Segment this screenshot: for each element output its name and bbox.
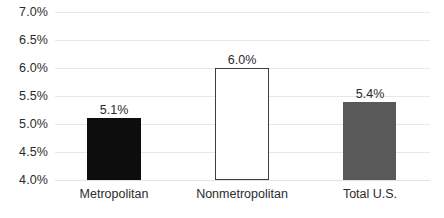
y-axis-tick-label-4-5: 4.5% [0, 146, 48, 159]
y-axis-tick-label-7-0: 7.0% [0, 6, 48, 19]
x-axis-category-label-metropolitan: Metropolitan [54, 188, 174, 201]
bar-chart: 7.0% 6.5% 6.0% 5.5% 5.0% 4.5% 4.0% 5.1% … [0, 0, 444, 218]
gridline-4-0-baseline [55, 180, 430, 181]
bar-value-label-total-us: 5.4% [330, 88, 410, 101]
bar-metropolitan[interactable] [87, 118, 141, 180]
y-axis-tick-label-5-0: 5.0% [0, 118, 48, 131]
bar-total-us[interactable] [343, 102, 396, 180]
x-axis-category-label-nonmetropolitan: Nonmetropolitan [172, 188, 312, 201]
bar-nonmetropolitan[interactable] [215, 68, 269, 180]
gridline-7-0 [55, 12, 430, 13]
bar-value-label-metropolitan: 5.1% [74, 104, 154, 117]
y-axis-tick-label-6-5: 6.5% [0, 34, 48, 47]
y-axis-tick-label-5-5: 5.5% [0, 90, 48, 103]
y-axis-tick-label-6-0: 6.0% [0, 62, 48, 75]
gridline-6-5 [55, 40, 430, 41]
bar-value-label-nonmetropolitan: 6.0% [202, 54, 282, 67]
x-axis-category-label-total-us: Total U.S. [310, 188, 430, 201]
y-axis-tick-label-4-0: 4.0% [0, 174, 48, 187]
